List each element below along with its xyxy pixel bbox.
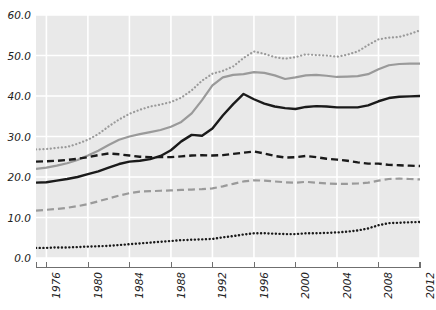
x-axis-tick-label: 2012 <box>424 272 436 299</box>
x-axis-line <box>36 267 420 268</box>
series-line-series-1-gray-dotted <box>36 30 420 149</box>
x-axis-tick <box>420 262 421 268</box>
series-line-series-3-black-solid <box>36 94 420 183</box>
x-axis-cap-left <box>36 262 37 268</box>
x-axis-tick-label: 1992 <box>216 272 228 299</box>
series-line-series-6-black-dotted <box>36 222 420 248</box>
x-axis-tick <box>337 262 338 268</box>
y-axis-tick-label: 20.0 <box>0 171 31 183</box>
x-axis-tick <box>171 262 172 268</box>
y-axis-tick-label: 30.0 <box>0 131 31 143</box>
x-axis-tick-label: 2000 <box>299 272 311 299</box>
x-axis-tick <box>254 262 255 268</box>
plot-area <box>36 15 420 258</box>
y-axis-tick-label: 0.0 <box>0 252 31 264</box>
y-axis-tick-label: 60.0 <box>0 9 31 21</box>
y-axis-tick-label: 40.0 <box>0 90 31 102</box>
x-axis-tick-label: 2008 <box>382 272 394 299</box>
x-axis-tick-label: 1996 <box>258 272 270 299</box>
y-axis-tick-label: 50.0 <box>0 50 31 62</box>
x-axis-tick <box>46 262 47 268</box>
x-axis-tick-label: 1984 <box>133 272 145 299</box>
x-axis-tick-label: 1976 <box>50 272 62 299</box>
series-group <box>36 30 420 247</box>
x-axis-tick <box>212 262 213 268</box>
x-axis-tick <box>129 262 130 268</box>
x-axis-tick-label: 1980 <box>92 272 104 299</box>
x-axis-tick-label: 1988 <box>175 272 187 299</box>
x-axis-tick-label: 2004 <box>341 272 353 299</box>
series-line-series-5-gray-dashed <box>36 179 420 211</box>
y-axis-tick-label: 10.0 <box>0 212 31 224</box>
plot-svg <box>36 15 420 258</box>
x-axis-tick <box>378 262 379 268</box>
x-axis-tick <box>295 262 296 268</box>
series-line-series-2-gray-solid <box>36 64 420 169</box>
x-axis-tick <box>88 262 89 268</box>
